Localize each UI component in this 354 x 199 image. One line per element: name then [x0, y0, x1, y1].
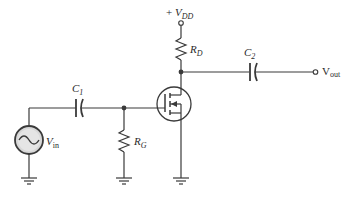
c1-capacitor	[76, 99, 83, 117]
ground-icon	[173, 178, 189, 184]
vout-label: Vout	[322, 65, 341, 79]
vin-label: Vin	[46, 135, 59, 150]
rd-label: RD	[189, 43, 203, 58]
c2-label: C2	[244, 46, 255, 61]
c1-label: C1	[72, 82, 83, 97]
rg-resistor	[119, 130, 129, 152]
rg-label: RG	[133, 135, 147, 150]
ac-source-icon	[15, 126, 43, 154]
vdd-terminal: + VDD	[166, 6, 193, 25]
vout-terminal	[313, 70, 318, 75]
circuit-schematic: + VDD RD C2 Vout	[0, 0, 354, 199]
mosfet-symbol	[157, 87, 191, 121]
vdd-label: + VDD	[166, 6, 193, 21]
ground-icon	[116, 178, 132, 184]
rd-resistor	[176, 38, 186, 60]
ground-icon	[21, 178, 37, 184]
